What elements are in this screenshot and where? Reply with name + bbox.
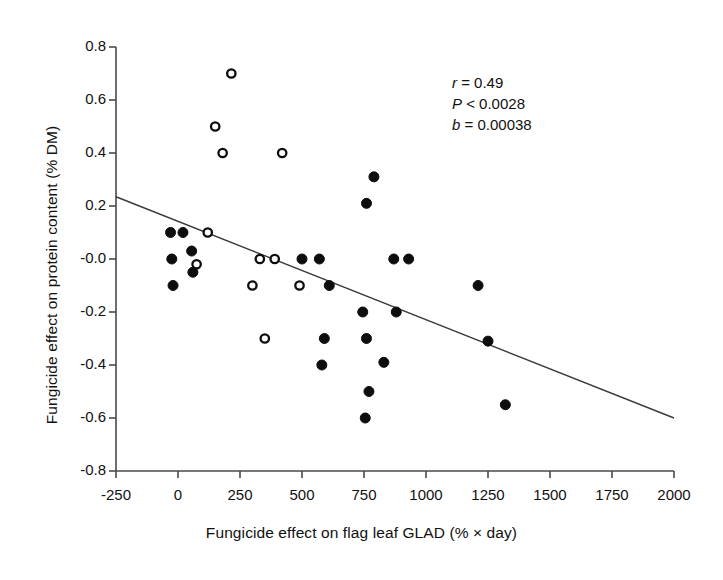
data-point-filled (391, 307, 401, 317)
data-point-open (261, 334, 269, 342)
pvalue-line: P < 0.0028 (452, 93, 532, 114)
data-point-open (295, 281, 303, 289)
data-point-filled (379, 357, 389, 367)
data-point-filled (324, 281, 334, 291)
data-point-filled (178, 228, 188, 238)
p-value: < 0.0028 (462, 95, 525, 112)
y-axis-title: Fungicide effect on protein content (% D… (43, 45, 61, 505)
data-point-filled (314, 254, 324, 264)
y-tick-label: -0.2 (48, 302, 106, 319)
x-tick-label: 2000 (634, 486, 714, 503)
slope-line: b = 0.00038 (452, 114, 532, 135)
y-tick-label: -0.6 (48, 408, 106, 425)
data-point-open (204, 228, 212, 236)
data-point-filled (167, 254, 177, 264)
statistics-annotation: r = 0.49 P < 0.0028 b = 0.00038 (452, 72, 532, 135)
scatter-plot-figure: Fungicide effect on flag leaf GLAD (% × … (0, 0, 723, 580)
data-point-open (211, 122, 219, 130)
y-tick-label: 0.8 (48, 37, 106, 54)
data-point-filled (168, 281, 178, 291)
data-point-filled (500, 400, 510, 410)
p-symbol: P (452, 95, 462, 112)
y-tick-label: -0.0 (48, 249, 106, 266)
data-point-filled (319, 334, 329, 344)
data-point-open (278, 149, 286, 157)
data-point-filled (188, 267, 198, 277)
correlation-line: r = 0.49 (452, 72, 532, 93)
b-value: = 0.00038 (460, 116, 531, 133)
r-value: = 0.49 (457, 74, 503, 91)
y-tick-label: 0.2 (48, 196, 106, 213)
data-point-filled (473, 281, 483, 291)
data-point-filled (361, 198, 371, 208)
data-point-filled (369, 172, 379, 182)
data-point-filled (361, 334, 371, 344)
data-point-open (248, 281, 256, 289)
data-point-open (256, 255, 264, 263)
data-point-filled (389, 254, 399, 264)
y-tick-label: 0.4 (48, 143, 106, 160)
y-tick-label: -0.4 (48, 355, 106, 372)
data-point-filled (166, 228, 176, 238)
data-point-open (227, 69, 235, 77)
data-point-open (271, 255, 279, 263)
data-point-filled (358, 307, 368, 317)
data-point-filled (404, 254, 414, 264)
x-axis-title: Fungicide effect on flag leaf GLAD (% × … (0, 524, 723, 542)
data-point-filled (317, 360, 327, 370)
data-point-open (218, 149, 226, 157)
data-point-filled (360, 413, 370, 423)
data-point-filled (187, 246, 197, 256)
y-tick-label: 0.6 (48, 90, 106, 107)
y-tick-label: -0.8 (48, 461, 106, 478)
data-point-filled (483, 336, 493, 346)
data-point-filled (364, 387, 374, 397)
data-point-filled (297, 254, 307, 264)
